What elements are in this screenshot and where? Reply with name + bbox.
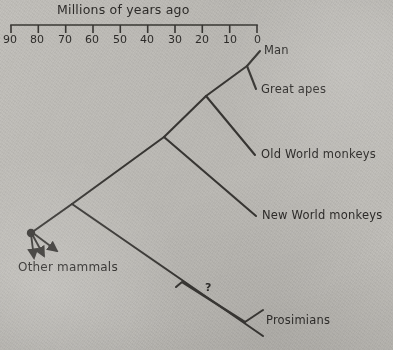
- branch-root-to-primates: [31, 204, 72, 233]
- uncertainty-question-mark: ?: [205, 281, 212, 294]
- tip-label-other-mammals: Other mammals: [18, 260, 118, 274]
- branch-old-world-monkeys: [206, 96, 255, 155]
- phylogenetic-tree-graphic: [0, 0, 393, 350]
- tip-label-prosimians: Prosimians: [266, 313, 330, 327]
- tip-label-man: Man: [264, 43, 289, 57]
- tree-branches: [31, 51, 263, 336]
- axis-tick-10: 10: [223, 33, 237, 46]
- tip-label-old-world-monkeys: Old World monkeys: [261, 147, 376, 161]
- axis-tick-90: 90: [3, 33, 17, 46]
- axis-title: Millions of years ago: [57, 2, 190, 17]
- axis-tick-60: 60: [85, 33, 99, 46]
- axis-tick-30: 30: [168, 33, 182, 46]
- tip-label-great-apes: Great apes: [261, 82, 326, 96]
- tip-label-new-world-monkeys: New World monkeys: [262, 208, 382, 222]
- branch-prosimian-tip: [245, 310, 263, 322]
- axis-tick-50: 50: [113, 33, 127, 46]
- other-mammals-node-group: [27, 229, 57, 258]
- branch-great-apes: [247, 66, 256, 89]
- axis-tick-80: 80: [30, 33, 44, 46]
- axis-tick-0: 0: [254, 33, 261, 46]
- time-axis: [11, 25, 257, 33]
- axis-tick-40: 40: [140, 33, 154, 46]
- axis-tick-70: 70: [58, 33, 72, 46]
- figure-canvas: Millions of years ago 90 80 70 60 50 40 …: [0, 0, 393, 350]
- axis-tick-20: 20: [195, 33, 209, 46]
- branch-new-world-monkeys: [164, 137, 256, 216]
